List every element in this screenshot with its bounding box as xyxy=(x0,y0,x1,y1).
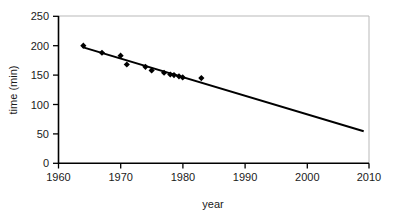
scatter-chart: 250 200 150 100 50 0 1960 1970 1980 1990… xyxy=(0,0,395,221)
data-point xyxy=(198,75,204,81)
y-axis: 250 200 150 100 50 0 xyxy=(31,10,59,169)
chart-figure: 250 200 150 100 50 0 1960 1970 1980 1990… xyxy=(0,0,395,221)
data-point-markers xyxy=(80,43,204,82)
y-tick-label-150: 150 xyxy=(31,69,49,81)
y-axis-title: time (min) xyxy=(7,66,19,115)
data-point xyxy=(99,50,105,56)
x-tick-label-1970: 1970 xyxy=(108,171,132,183)
data-layer xyxy=(80,43,363,131)
y-tick-label-200: 200 xyxy=(31,40,49,52)
x-axis-title: year xyxy=(202,198,224,210)
y-tick-label-100: 100 xyxy=(31,99,49,111)
plot-frame xyxy=(58,16,369,163)
x-tick-label-2010: 2010 xyxy=(357,171,381,183)
y-tick-label-50: 50 xyxy=(37,128,49,140)
trend-line xyxy=(83,47,362,130)
y-tick-label-250: 250 xyxy=(31,10,49,22)
x-tick-label-1990: 1990 xyxy=(233,171,257,183)
x-tick-label-2000: 2000 xyxy=(295,171,319,183)
data-point xyxy=(124,61,130,67)
y-tick-label-0: 0 xyxy=(43,157,49,169)
x-axis: 1960 1970 1980 1990 2000 2010 xyxy=(46,163,381,183)
x-tick-label-1980: 1980 xyxy=(171,171,195,183)
x-tick-label-1960: 1960 xyxy=(46,171,70,183)
